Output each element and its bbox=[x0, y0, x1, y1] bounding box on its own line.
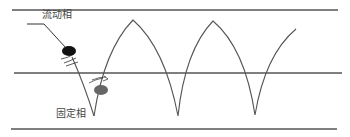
mobile-phase-leader-line bbox=[27, 24, 66, 48]
particle-wave-path bbox=[94, 20, 296, 116]
mobile-phase-particle bbox=[62, 46, 76, 56]
diagram-svg bbox=[0, 0, 350, 137]
motion-lines-stationary bbox=[89, 76, 108, 83]
stationary-phase-particle bbox=[94, 85, 108, 95]
chromatography-diagram: 流动相 固定相 bbox=[0, 0, 350, 137]
stationary-phase-label: 固定相 bbox=[56, 109, 86, 119]
mobile-phase-label: 流动相 bbox=[42, 10, 72, 20]
